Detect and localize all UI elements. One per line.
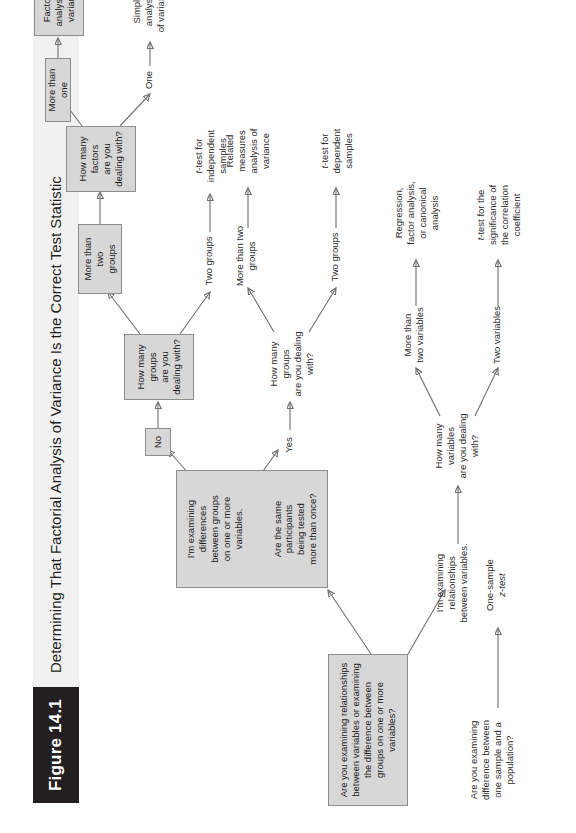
node-line: More than two (234, 224, 246, 288)
node-line: the correlation (499, 174, 511, 256)
figure-page: Figure 14.1 Determining That Factorial A… (0, 0, 576, 833)
node-question-how-many-groups-independent: How many groups are you dealing with? (124, 334, 194, 400)
node-answer-no: No (145, 428, 171, 456)
flowchart-canvas: Are you examining difference between one… (28, 16, 548, 816)
node-line: Factorial (41, 0, 53, 26)
node-answer-more-than-one-factor: More than one (45, 58, 71, 122)
node-line: with? (469, 410, 481, 482)
node-line: significance of (487, 174, 499, 256)
node-result-t-test-independent-samples: t-test for independent samples (193, 122, 229, 190)
node-answer-two-groups-independent: Two groups (203, 232, 215, 290)
node-answer-more-than-two-groups-independent: More than two groups (78, 224, 122, 294)
node-line: two variables (414, 302, 426, 368)
node-answer-two-variables: Two variables (491, 304, 503, 366)
node-line: groups (246, 224, 258, 288)
node-line: I'm examining (185, 495, 197, 563)
node-question-how-many-variables: How many variables are you dealing with? (433, 410, 481, 482)
node-line: are you dealing (457, 410, 469, 482)
node-line: participants (283, 493, 295, 564)
node-answer-more-than-two-variables: More than two variables (402, 302, 426, 368)
node-line: No (152, 436, 164, 448)
node-line: Simple (131, 0, 143, 40)
node-line: More than two (82, 229, 106, 289)
node-line: are you dealing (292, 328, 304, 400)
node-line: one sample and a (492, 710, 504, 810)
node-line: coefficient (511, 174, 523, 256)
node-branch-differences-box: I'm examining differences between groups… (176, 470, 328, 588)
node-line: Two variables (491, 304, 503, 366)
node-line: Two groups (329, 228, 341, 286)
node-line: dealing with? (113, 131, 125, 186)
node-line: relationships (446, 540, 458, 626)
node-line: between groups (209, 495, 221, 563)
node-line: are you (101, 131, 113, 186)
node-line: variance (260, 118, 272, 184)
node-line: factors (89, 131, 101, 186)
node-result-one-sample-z-test: One-sample z-test (484, 546, 508, 624)
node-line: How many groups (268, 328, 292, 400)
node-line: difference between (480, 710, 492, 810)
node-line: samples (217, 122, 229, 190)
node-line: analysis of (53, 0, 65, 26)
node-line: dependent (331, 118, 343, 184)
node-line: Two groups (203, 232, 215, 290)
node-line: Yes (283, 430, 295, 460)
node-line: How many (135, 339, 147, 394)
node-question-one-sample: Are you examining difference between one… (468, 710, 516, 810)
node-line: differences (197, 495, 209, 563)
node-answer-two-groups-dependent: Two groups (329, 228, 341, 286)
node-line: One (143, 66, 155, 94)
node-line: samples (343, 118, 355, 184)
node-line: between variables. (458, 540, 470, 626)
node-result-t-test-correlation: t-test for the significance of the corre… (475, 174, 523, 256)
node-answer-more-than-two-groups-dependent: More than two groups (234, 224, 258, 288)
node-line: groups (147, 339, 159, 394)
node-line: Are you examining relationships (338, 663, 350, 798)
node-line: variables. (233, 495, 245, 563)
node-question-how-many-groups-dependent: How many groups are you dealing with? (268, 328, 316, 400)
node-result-simple-anova: Simple analysis of variance (131, 0, 167, 40)
node-line: analysis of (248, 118, 260, 184)
node-line: or canonical (417, 170, 429, 256)
node-line: More than one (46, 63, 70, 117)
node-line-suffix: -test for (193, 139, 204, 171)
node-line: measures (236, 118, 248, 184)
node-line: of variance (155, 0, 167, 40)
node-line: groups (106, 229, 118, 289)
node-branch-differences-text: I'm examining differences between groups… (185, 495, 244, 563)
node-line: I'm examining (434, 540, 446, 626)
node-line-suffix: -test for (319, 134, 330, 166)
node-line: variables (445, 410, 457, 482)
node-question-same-participants-text: Are the same participants being tested m… (272, 493, 320, 564)
node-line: One-sample (484, 546, 496, 624)
node-line: Regression, (393, 170, 405, 256)
node-question-root: Are you examining relationships between … (328, 654, 408, 806)
node-question-how-many-factors: How many factors are you dealing with? (66, 126, 136, 192)
node-branch-relationships: I'm examining relationships between vari… (434, 540, 470, 626)
node-line: dealing with? (171, 339, 183, 394)
node-line: more than once? (307, 493, 319, 564)
node-line: on one or more (221, 495, 233, 563)
node-line: being tested (295, 493, 307, 564)
node-line: analysis (143, 0, 155, 40)
node-answer-one-factor: One (143, 66, 155, 94)
node-result-regression-factor-canonical: Regression, factor analysis, or canonica… (393, 170, 441, 256)
node-line-suffix: -test for the (475, 190, 486, 238)
node-result-related-measures-anova: Related measures analysis of variance (224, 118, 272, 184)
node-line: the difference between (362, 663, 374, 798)
node-line: How many (77, 131, 89, 186)
node-line: are you (159, 339, 171, 394)
node-line: with? (304, 328, 316, 400)
node-line: between variables or examining (350, 663, 362, 798)
node-result-factorial-anova: Factorial analysis of variance (34, 0, 84, 36)
node-line: Are the same (272, 493, 284, 564)
node-line: z-test (496, 546, 508, 624)
node-answer-yes: Yes (283, 430, 295, 460)
node-line: More than (402, 302, 414, 368)
node-line: variance (65, 0, 77, 26)
node-line: population? (504, 710, 516, 810)
node-line: variables? (386, 663, 398, 798)
node-line: independent (205, 122, 217, 190)
node-line: groups on one or more (374, 663, 386, 798)
node-line: Are you examining (468, 710, 480, 810)
